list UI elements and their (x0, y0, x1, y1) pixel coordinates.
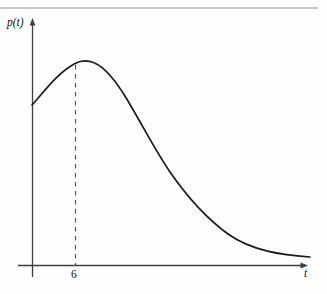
population-curve (32, 61, 310, 257)
y-axis-arrowhead-icon (30, 18, 36, 26)
y-axis-label: p(t) (7, 17, 24, 29)
x-axis-tick-label-6: 6 (71, 269, 77, 281)
x-axis-label: t (304, 268, 307, 280)
plot-canvas (0, 0, 327, 294)
figure-container: p(t) t 6 (0, 0, 327, 294)
